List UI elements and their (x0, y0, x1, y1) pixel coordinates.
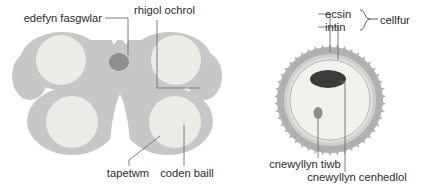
label-cnewyllyn-cenhedlol: cnewyllyn cenhedlol (307, 171, 407, 183)
tube-nucleus (314, 107, 323, 119)
label-ecsin: ecsin (325, 8, 351, 20)
vascular-bundle (109, 53, 129, 71)
pollen-anther-diagram: edefyn fasgwlar rhigol ochrol tapetwm co… (0, 0, 425, 186)
generative-nucleus (310, 70, 346, 88)
label-rhigol-ochrol: rhigol ochrol (134, 4, 195, 16)
pollen-sac-upper-left (36, 35, 86, 85)
pollen-sac-lower-right (149, 96, 201, 148)
label-coden-baill: coden baill (160, 167, 214, 179)
pollen-sac-upper-right (151, 35, 201, 85)
label-cellfur: cellfur (380, 14, 410, 26)
label-intin: intin (325, 21, 346, 33)
label-tapetwm: tapetwm (107, 167, 149, 179)
pollen-sac-lower-left (46, 96, 98, 148)
label-cnewyllyn-tiwb: cnewyllyn tiwb (269, 158, 341, 170)
label-edefyn-fasgwlar: edefyn fasgwlar (24, 12, 103, 24)
